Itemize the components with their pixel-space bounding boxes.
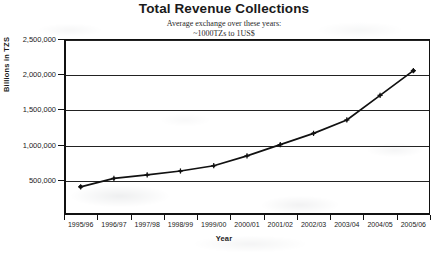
data-point-marker xyxy=(111,176,116,181)
data-series-layer xyxy=(0,0,448,256)
data-point-marker xyxy=(311,131,316,136)
series-line-total-revenue xyxy=(81,71,414,187)
data-point-marker xyxy=(211,163,216,168)
series-markers xyxy=(78,68,416,189)
data-point-marker xyxy=(244,153,249,158)
data-point-marker xyxy=(278,142,283,147)
data-point-marker xyxy=(145,172,150,177)
revenue-line-chart: Total Revenue Collections Average exchan… xyxy=(0,0,448,256)
data-point-marker xyxy=(178,168,183,173)
data-point-marker xyxy=(78,184,83,189)
